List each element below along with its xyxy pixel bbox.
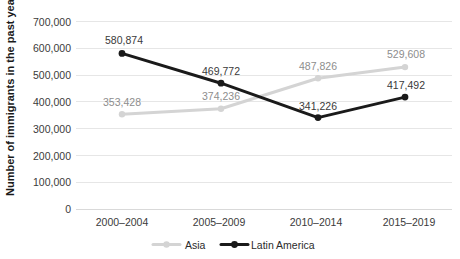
chart-canvas: Number of immigrants in the past year 70… [0,0,460,259]
latin-america-point-0 [119,50,126,57]
y-tick-label-600000: 600,000 [33,42,71,54]
latin-america-point-3 [402,94,409,101]
y-tick-label-500000: 500,000 [33,69,71,81]
y-tick-label-400000: 400,000 [33,96,71,108]
asia-point-1 [218,106,224,112]
latin-america-data-label-2: 341,226 [299,100,337,112]
y-axis-title: Number of immigrants in the past year [4,0,16,196]
y-tick-label-100000: 100,000 [33,176,71,188]
y-tick-label-0: 0 [65,203,71,215]
latin-america-line-swatch-marker [231,241,238,248]
latin-america-data-label-0: 580,874 [105,34,143,46]
chart-legend: Asia Latin America [153,239,315,251]
asia-data-label-2: 487,826 [299,60,337,72]
series-latin-america [119,50,409,121]
legend-label-latin-america: Latin America [251,239,315,251]
y-axis-tick-labels: 700,000 600,000 500,000 400,000 300,000 … [33,16,71,216]
asia-point-0 [119,111,125,117]
x-tick-label-2: 2010–2014 [290,216,343,228]
x-tick-label-3: 2015–2019 [383,216,436,228]
latin-america-data-label-1: 469,772 [202,65,240,77]
asia-data-label-1: 374,236 [202,90,240,102]
latin-america-line [122,53,405,117]
x-axis-category-labels: 2000–2004 2005–2009 2010–2014 2015–2019 [96,216,436,228]
x-tick-label-0: 2000–2004 [96,216,149,228]
series-asia [119,64,408,118]
legend-item-latin-america[interactable]: Latin America [221,239,315,251]
latin-america-point-1 [218,80,225,87]
asia-line-swatch-marker [163,241,169,247]
legend-label-asia: Asia [185,239,206,251]
legend-item-asia[interactable]: Asia [153,239,206,251]
y-tick-label-300000: 300,000 [33,123,71,135]
asia-point-3 [402,64,408,70]
asia-point-2 [315,75,321,81]
latin-america-point-2 [315,114,322,121]
y-tick-label-700000: 700,000 [33,16,71,28]
asia-data-label-0: 353,428 [103,96,141,108]
immigration-line-chart: Number of immigrants in the past year 70… [0,0,460,259]
asia-data-label-3: 529,608 [387,48,425,60]
x-tick-label-1: 2005–2009 [193,216,246,228]
y-tick-label-200000: 200,000 [33,150,71,162]
latin-america-data-label-3: 417,492 [387,79,425,91]
